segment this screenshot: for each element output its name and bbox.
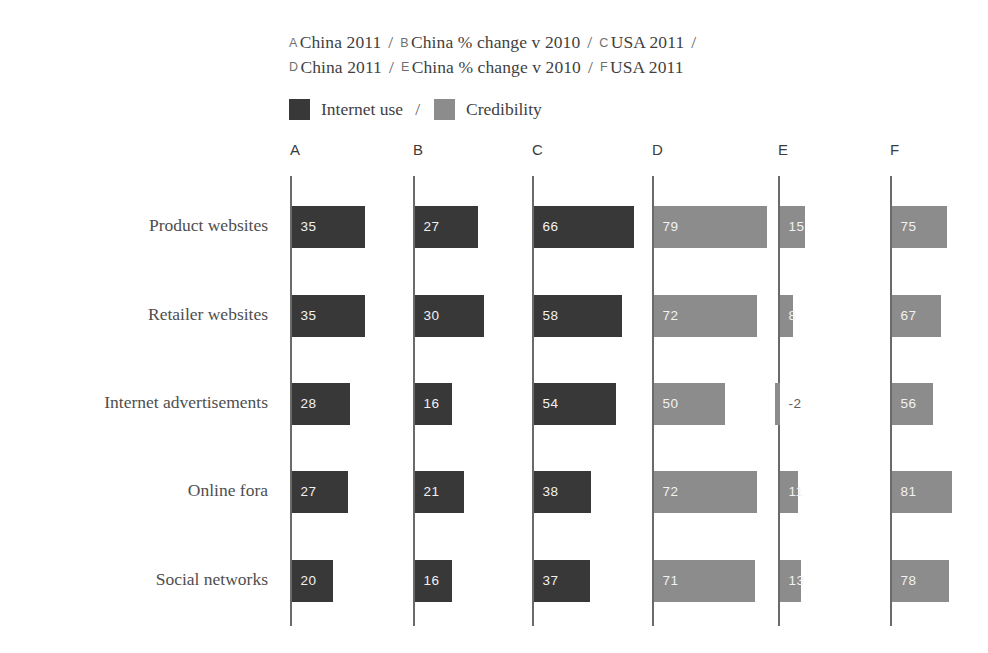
bar-value-label: 72 <box>663 309 679 323</box>
panel-header-c: C <box>532 141 543 158</box>
bar-value-label: 35 <box>301 220 317 234</box>
bar-value-label: 16 <box>424 397 440 411</box>
bar-value-label: 21 <box>424 485 440 499</box>
bar-value-label: 16 <box>424 574 440 588</box>
bar-value-label: 56 <box>901 397 917 411</box>
bar-a-2: 35 <box>292 295 365 337</box>
panel-header-b: B <box>413 141 423 158</box>
bar-e-1: 15 <box>780 206 805 248</box>
bar-value-label: 30 <box>424 309 440 323</box>
bar-b-1: 27 <box>415 206 478 248</box>
bar-b-2: 30 <box>415 295 485 337</box>
bar-value-label: 8 <box>789 309 797 323</box>
bar-value-label: 20 <box>301 574 317 588</box>
bar-a-3: 28 <box>292 383 351 425</box>
category-label: Online fora <box>0 480 268 501</box>
bar-f-5: 78 <box>892 560 950 602</box>
bar-e-4: 11 <box>780 471 798 513</box>
bar-f-1: 75 <box>892 206 948 248</box>
bar-e-5: 13 <box>780 560 802 602</box>
bar-d-3: 50 <box>654 383 726 425</box>
bar-f-2: 67 <box>892 295 942 337</box>
small-multiples-bar-chart: Product websitesRetailer websitesInterne… <box>0 0 988 653</box>
bar-b-3: 16 <box>415 383 452 425</box>
bar-value-label: 50 <box>663 397 679 411</box>
category-label: Internet advertisements <box>0 392 268 413</box>
bar-f-4: 81 <box>892 471 952 513</box>
bar-value-label: 58 <box>543 309 559 323</box>
bar-value-label: 15 <box>789 220 805 234</box>
bar-c-5: 37 <box>534 560 590 602</box>
category-label: Product websites <box>0 215 268 236</box>
bar-c-2: 58 <box>534 295 622 337</box>
bar-value-label: 71 <box>663 574 679 588</box>
bar-d-1: 79 <box>654 206 767 248</box>
panel-header-f: F <box>890 141 899 158</box>
bar-value-label: 13 <box>789 574 805 588</box>
bar-value-label: 27 <box>424 220 440 234</box>
panel-header-a: A <box>290 141 300 158</box>
bar-value-label: 66 <box>543 220 559 234</box>
bar-value-label: 75 <box>901 220 917 234</box>
bar-a-1: 35 <box>292 206 365 248</box>
bar-c-1: 66 <box>534 206 634 248</box>
bar-value-label: 28 <box>301 397 317 411</box>
bar-e-2: 8 <box>780 295 793 337</box>
bar-value-label: 27 <box>301 485 317 499</box>
bar-d-5: 71 <box>654 560 756 602</box>
bar-value-label: -2 <box>789 397 802 411</box>
bar-d-2: 72 <box>654 295 757 337</box>
chart-page: AChina 2011/BChina % change v 2010/CUSA … <box>0 0 988 653</box>
bar-b-4: 21 <box>415 471 464 513</box>
category-label: Retailer websites <box>0 304 268 325</box>
bar-value-label: 79 <box>663 220 679 234</box>
bar-b-5: 16 <box>415 560 452 602</box>
panel-header-d: D <box>652 141 663 158</box>
bar-value-label: 54 <box>543 397 559 411</box>
bar-a-5: 20 <box>292 560 334 602</box>
bar-e-3: -2 <box>775 383 780 425</box>
bar-value-label: 72 <box>663 485 679 499</box>
bar-a-4: 27 <box>292 471 348 513</box>
bar-value-label: 78 <box>901 574 917 588</box>
bar-value-label: 37 <box>543 574 559 588</box>
bar-value-label: 38 <box>543 485 559 499</box>
bar-c-4: 38 <box>534 471 592 513</box>
bar-f-3: 56 <box>892 383 933 425</box>
panel-header-e: E <box>778 141 788 158</box>
bar-value-label: 35 <box>301 309 317 323</box>
bar-d-4: 72 <box>654 471 757 513</box>
bar-value-label: 11 <box>789 485 804 499</box>
category-label: Social networks <box>0 569 268 590</box>
bar-value-label: 81 <box>901 485 917 499</box>
bar-c-3: 54 <box>534 383 616 425</box>
bar-value-label: 67 <box>901 309 917 323</box>
